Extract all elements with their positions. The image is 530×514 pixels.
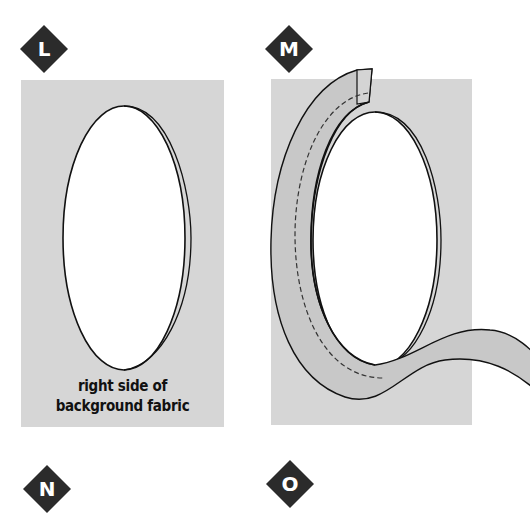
caption-line-1: right side of <box>21 376 224 396</box>
step-badge-L: L <box>19 24 69 74</box>
step-letter: N <box>22 464 72 514</box>
background-fabric-oval <box>21 80 224 427</box>
panel-L-caption: right side of background fabric <box>21 376 224 416</box>
caption-line-2: background fabric <box>21 396 224 416</box>
bias-strip-around-oval <box>265 60 530 430</box>
panel-L-illustration: right side of background fabric <box>21 80 224 427</box>
step-badge-N: N <box>22 464 72 514</box>
step-badge-O: O <box>265 459 315 509</box>
step-letter: O <box>265 459 315 509</box>
step-letter: L <box>19 24 69 74</box>
panel-M-illustration <box>265 60 530 430</box>
